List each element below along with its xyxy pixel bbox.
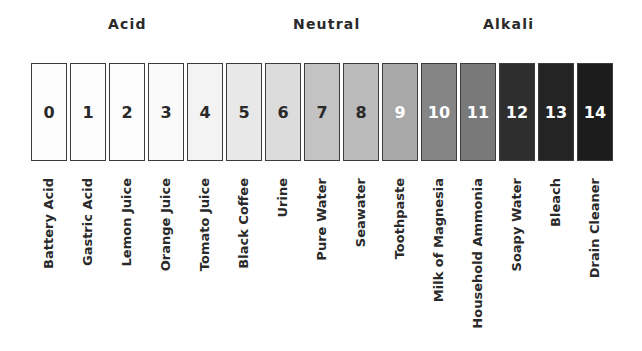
substance-label: Tomato Juice: [197, 178, 213, 271]
substance-label: Black Coffee: [236, 178, 252, 269]
substance-label: Toothpaste: [392, 178, 408, 259]
substance-label: Pure Water: [314, 178, 330, 261]
label-slot: Seawater: [343, 178, 379, 338]
substance-label: Soapy Water: [509, 178, 525, 271]
ph-cell-13: 13: [538, 63, 574, 161]
ph-cell-14: 14: [577, 63, 613, 161]
label-slot: Milk of Magnesia: [421, 178, 457, 338]
label-slot: Urine: [265, 178, 301, 338]
ph-scale-bar: 01234567891011121314: [31, 63, 613, 161]
ph-cell-0: 0: [31, 63, 67, 161]
label-slot: Tomato Juice: [187, 178, 223, 338]
substance-label: Household Ammonia: [470, 178, 486, 329]
substance-label: Lemon Juice: [119, 178, 135, 266]
substance-label: Seawater: [353, 178, 369, 247]
ph-cell-7: 7: [304, 63, 340, 161]
substance-labels: Battery AcidGastric AcidLemon JuiceOrang…: [31, 178, 613, 338]
label-slot: Drain Cleaner: [577, 178, 613, 338]
ph-cell-12: 12: [499, 63, 535, 161]
header-alkali: Alkali: [483, 16, 534, 32]
label-slot: Pure Water: [304, 178, 340, 338]
substance-label: Orange Juice: [158, 178, 174, 271]
label-slot: Battery Acid: [31, 178, 67, 338]
ph-cell-3: 3: [148, 63, 184, 161]
ph-cell-1: 1: [70, 63, 106, 161]
label-slot: Bleach: [538, 178, 574, 338]
ph-cell-4: 4: [187, 63, 223, 161]
substance-label: Drain Cleaner: [587, 178, 603, 278]
substance-label: Gastric Acid: [80, 178, 96, 266]
header-neutral: Neutral: [293, 16, 360, 32]
substance-label: Urine: [275, 178, 291, 218]
ph-cell-6: 6: [265, 63, 301, 161]
substance-label: Bleach: [548, 178, 564, 227]
ph-cell-11: 11: [460, 63, 496, 161]
label-slot: Lemon Juice: [109, 178, 145, 338]
ph-cell-2: 2: [109, 63, 145, 161]
substance-label: Milk of Magnesia: [431, 178, 447, 302]
ph-cell-8: 8: [343, 63, 379, 161]
label-slot: Gastric Acid: [70, 178, 106, 338]
label-slot: Black Coffee: [226, 178, 262, 338]
ph-cell-10: 10: [421, 63, 457, 161]
ph-cell-5: 5: [226, 63, 262, 161]
header-acid: Acid: [108, 16, 147, 32]
label-slot: Household Ammonia: [460, 178, 496, 338]
label-slot: Orange Juice: [148, 178, 184, 338]
ph-cell-9: 9: [382, 63, 418, 161]
label-slot: Soapy Water: [499, 178, 535, 338]
substance-label: Battery Acid: [41, 178, 57, 269]
label-slot: Toothpaste: [382, 178, 418, 338]
